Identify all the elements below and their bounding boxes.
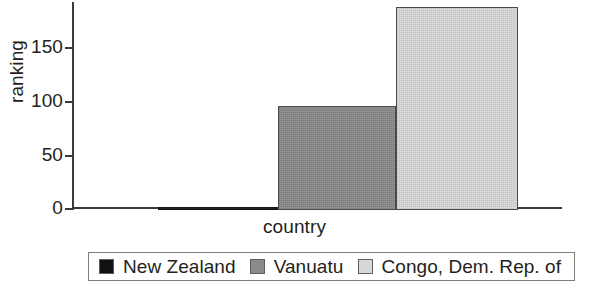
bar-texture [158,207,278,210]
x-axis-title: country [0,217,597,236]
legend-swatch-icon [99,259,114,274]
bar-new-zealand [158,207,278,210]
bar-chart-figure: ranking 150 100 50 0 [0,0,597,283]
legend-item-label: Congo, Dem. Rep. of [382,257,561,276]
y-axis-line [72,2,74,210]
bar-texture [279,107,395,209]
y-tick-mark [65,101,73,103]
x-axis-title-label: country [263,217,326,236]
plot-area: 150 100 50 0 [72,0,572,210]
y-tick-mark [65,47,73,49]
y-tick-mark [65,155,73,157]
y-tick-label: 100 [31,91,63,110]
legend-item-new-zealand: New Zealand [99,257,236,276]
bar-congo-dem-rep-of [396,7,518,210]
bar-vanuatu [278,106,396,210]
y-tick-mark [65,208,73,210]
y-tick-label: 0 [52,198,63,217]
y-axis-title-label: ranking [7,17,26,127]
legend-item-label: New Zealand [123,257,236,276]
chart-legend: New Zealand Vanuatu Congo, Dem. Rep. of [88,252,575,281]
legend-item-congo-dem-rep-of: Congo, Dem. Rep. of [358,257,561,276]
y-tick-label: 150 [31,37,63,56]
legend-item-vanuatu: Vanuatu [250,257,344,276]
legend-swatch-icon [358,259,373,274]
y-tick-label: 50 [42,145,63,164]
legend-item-label: Vanuatu [274,257,344,276]
bar-texture [397,8,517,209]
y-axis-title: ranking [7,60,26,84]
legend-swatch-icon [250,259,265,274]
